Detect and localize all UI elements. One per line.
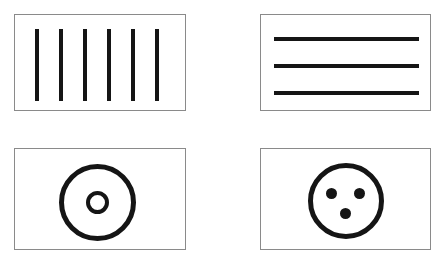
vertical-bar-3 <box>83 29 87 101</box>
face-outline <box>308 163 384 239</box>
panel-vertical-bars <box>14 14 186 111</box>
panel-concentric-circles-content <box>15 149 185 249</box>
horizontal-line-3 <box>274 91 419 95</box>
panel-horizontal-lines <box>260 14 431 111</box>
dot-bottom <box>340 208 351 219</box>
diagram-canvas <box>0 0 446 262</box>
horizontal-line-2 <box>274 64 419 68</box>
inner-ring <box>86 191 109 214</box>
vertical-bar-6 <box>155 29 159 101</box>
vertical-bar-2 <box>59 29 63 101</box>
panel-horizontal-lines-content <box>261 15 430 110</box>
vertical-bar-1 <box>35 29 39 101</box>
vertical-bar-4 <box>107 29 111 101</box>
horizontal-line-1 <box>274 37 419 41</box>
vertical-bar-5 <box>131 29 135 101</box>
dot-right <box>354 188 365 199</box>
panel-three-dot-face-content <box>261 149 430 249</box>
panel-vertical-bars-content <box>15 15 185 110</box>
panel-three-dot-face <box>260 148 431 250</box>
panel-concentric-circles <box>14 148 186 250</box>
dot-left <box>326 188 337 199</box>
